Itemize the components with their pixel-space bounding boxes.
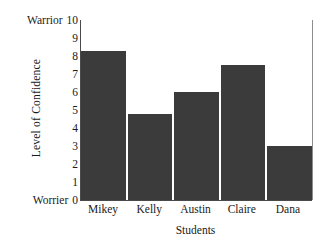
y-axis-tick-8: 8 (72, 49, 78, 63)
y-axis-tick-value: 6 (72, 86, 78, 98)
y-axis-tick-value: 5 (72, 104, 78, 116)
y-axis-tick-9: 9 (72, 31, 78, 45)
y-axis-anchor-label: Warrior (27, 14, 62, 26)
y-axis-tick-7: 7 (72, 67, 78, 81)
bar (173, 92, 219, 200)
y-axis-tick-value: 7 (72, 68, 78, 80)
y-axis-tick-0: Worrier0 (33, 193, 78, 207)
x-axis-tick-label: Dana (265, 203, 311, 215)
x-axis-tick-labels: MikeyKellyAustinClaireDana (80, 203, 311, 215)
x-axis-tick-label: Kelly (126, 203, 172, 215)
y-axis-tick-1: 1 (72, 175, 78, 189)
bar-cell (266, 20, 312, 200)
x-axis-tick-label: Austin (172, 203, 218, 215)
y-axis-tick-value: 9 (72, 32, 78, 44)
plot-area (80, 20, 312, 201)
y-axis-tick-value: 3 (72, 140, 78, 152)
y-axis-tick-value: 8 (72, 50, 78, 62)
bar (266, 146, 312, 200)
y-axis-tick-6: 6 (72, 85, 78, 99)
bar-cell (220, 20, 266, 200)
y-axis-tick-value: 10 (67, 14, 79, 26)
y-axis-tick-10: Warrior10 (27, 13, 78, 27)
bar-chart-figure: Level of Confidence Warrior10987654321Wo… (0, 0, 329, 252)
y-axis-tick-value: 2 (72, 158, 78, 170)
y-axis-tick-3: 3 (72, 139, 78, 153)
bar-cell (81, 20, 127, 200)
bar (127, 114, 173, 200)
y-axis-anchor-label: Worrier (33, 194, 68, 206)
y-axis-tick-4: 4 (72, 121, 78, 135)
y-axis-tick-2: 2 (72, 157, 78, 171)
bar-cell (173, 20, 219, 200)
x-axis-tick-label: Mikey (80, 203, 126, 215)
plot-right-border (312, 20, 313, 200)
y-axis-tick-value: 4 (72, 122, 78, 134)
y-axis-tick-5: 5 (72, 103, 78, 117)
bar (81, 51, 127, 200)
bars-container (81, 20, 312, 200)
bar-cell (127, 20, 173, 200)
x-axis-title: Students (80, 224, 311, 236)
bar (220, 65, 266, 200)
y-axis-tick-labels: Warrior10987654321Worrier0 (0, 0, 78, 252)
x-axis-tick-label: Claire (219, 203, 265, 215)
y-axis-tick-value: 1 (72, 176, 78, 188)
y-axis-tick-value: 0 (72, 194, 78, 206)
